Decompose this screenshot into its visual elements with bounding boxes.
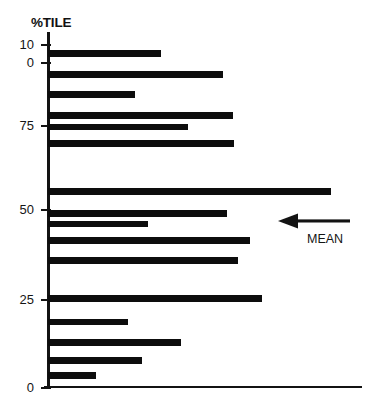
bar-12 [48,295,262,302]
mean-label: MEAN [307,232,343,246]
y-axis-tick-label: 0 [0,381,34,394]
bar-1 [48,50,161,57]
x-axis-line [44,386,362,388]
bar-16 [48,372,96,379]
y-axis-tick-mark [41,387,51,389]
bar-7 [48,188,331,195]
y-axis-tick-label: 75 [0,119,34,132]
bar-3 [48,91,135,98]
y-axis-tick-mark [41,44,51,46]
bar-15 [48,357,142,364]
y-axis-tick-label: 10 [0,38,34,51]
bar-4 [48,112,233,119]
mean-annotation: MEAN [276,212,372,252]
y-axis-tick-mark [41,62,51,64]
percentile-bar-chart: %TILE 1007550250 MEAN [0,0,378,413]
bar-11 [48,257,238,264]
y-axis-tick-label: 0 [0,56,34,69]
bar-8 [48,210,227,217]
bar-5 [48,124,188,130]
bar-2 [48,71,223,78]
bar-9 [48,221,148,227]
y-axis-tick-label: 25 [0,293,34,306]
page-title: %TILE [31,15,71,30]
arrow-left-icon [276,212,352,230]
bar-13 [48,319,128,325]
bar-10 [48,237,250,244]
bar-14 [48,339,181,346]
bar-6 [48,140,234,147]
y-axis-tick-label: 50 [0,203,34,216]
